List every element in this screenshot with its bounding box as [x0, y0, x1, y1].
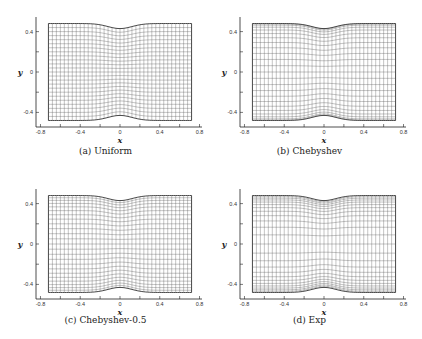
x-tick-label: 0.8 [400, 129, 408, 135]
x-tick-label: -0.8 [36, 301, 45, 307]
mesh-grid [48, 196, 191, 293]
y-tick-label: -0.4 [24, 109, 33, 115]
caption-uniform: (a) Uniform [0, 146, 211, 156]
mesh-plot-chebyshev: -0.8-0.400.40.80.40-0.4xy [204, 0, 415, 150]
axes: -0.8-0.400.40.80.40-0.4xy [17, 17, 204, 145]
y-tick-label: 0.4 [25, 29, 33, 35]
y-tick-label: 0 [234, 69, 237, 75]
panel-chebyshev-05: -0.8-0.400.40.80.40-0.4xy (c) Chebyshev-… [0, 172, 211, 339]
x-tick-label: 0 [118, 301, 121, 307]
x-tick-label: -0.4 [75, 129, 84, 135]
y-tick-label: 0.4 [229, 29, 237, 35]
y-tick-label: -0.4 [228, 281, 237, 287]
axes: -0.8-0.400.40.80.40-0.4xy [17, 189, 204, 317]
x-tick-label: 0.8 [400, 301, 408, 307]
mesh-grid [48, 24, 191, 121]
y-tick-label: 0 [30, 69, 33, 75]
x-tick-label: 0.8 [196, 301, 204, 307]
y-tick-label: 0 [30, 241, 33, 247]
x-tick-label: -0.8 [240, 129, 249, 135]
caption-chebyshev-05: (c) Chebyshev-0.5 [0, 315, 211, 325]
mesh-grid [252, 24, 395, 121]
y-tick-label: -0.4 [24, 281, 33, 287]
x-tick-label: -0.4 [75, 301, 84, 307]
x-tick-label: 0.4 [360, 129, 368, 135]
caption-chebyshev: (b) Chebyshev [204, 146, 415, 156]
y-axis-title: y [221, 67, 228, 77]
x-tick-label: 0.4 [360, 301, 368, 307]
y-axis-title: y [221, 239, 228, 249]
x-axis-title: x [321, 135, 327, 145]
panel-exp: -0.8-0.400.40.80.40-0.4xy (d) Exp [204, 172, 415, 339]
x-tick-label: 0.8 [196, 129, 204, 135]
mesh-plot-exp: -0.8-0.400.40.80.40-0.4xy [204, 172, 415, 322]
panel-uniform: -0.8-0.400.40.80.40-0.4xy (a) Uniform [0, 0, 211, 170]
x-tick-label: -0.4 [279, 129, 288, 135]
x-tick-label: 0 [322, 301, 325, 307]
panel-chebyshev: -0.8-0.400.40.80.40-0.4xy (b) Chebyshev [204, 0, 415, 170]
x-tick-label: 0 [118, 129, 121, 135]
y-axis-title: y [17, 67, 24, 77]
mesh-plot-chebyshev-05: -0.8-0.400.40.80.40-0.4xy [0, 172, 211, 322]
y-axis-title: y [17, 239, 24, 249]
y-tick-label: -0.4 [228, 109, 237, 115]
y-tick-label: 0.4 [229, 201, 237, 207]
y-tick-label: 0 [234, 241, 237, 247]
x-tick-label: -0.4 [279, 301, 288, 307]
x-tick-label: -0.8 [240, 301, 249, 307]
mesh-plot-uniform: -0.8-0.400.40.80.40-0.4xy [0, 0, 211, 150]
x-axis-title: x [117, 135, 123, 145]
x-tick-label: -0.8 [36, 129, 45, 135]
y-tick-label: 0.4 [25, 201, 33, 207]
x-tick-label: 0 [322, 129, 325, 135]
caption-exp: (d) Exp [204, 315, 415, 325]
mesh-grid [252, 196, 395, 293]
x-tick-label: 0.4 [156, 129, 164, 135]
x-tick-label: 0.4 [156, 301, 164, 307]
